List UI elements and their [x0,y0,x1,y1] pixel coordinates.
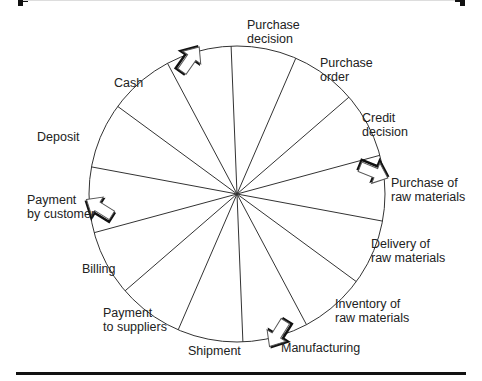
spoke-line [237,194,307,325]
spoke-line [168,63,238,194]
stage-label-line: Payment [27,193,95,207]
stage-label-line: to suppliers [103,320,167,334]
stage-label-payment-to-suppliers: Paymentto suppliers [103,306,167,334]
spoke-line [118,106,237,194]
stage-label-line: Purchase [320,56,373,70]
spoke-line [237,155,380,194]
stage-label-cash: Cash [114,76,143,90]
stage-label-line: decision [362,125,408,139]
stage-label-line: Payment [103,306,167,320]
stage-label-line: Inventory of [335,297,409,311]
frame-bottom-rule [16,372,466,375]
spoke-line [237,97,349,194]
frame-top-rule [23,0,460,1]
stage-label-line: order [320,70,373,84]
stage-label-shipment: Shipment [188,344,241,358]
spoke-line [92,167,238,194]
stage-label-line: Purchase of [391,176,465,190]
stage-label-deposit: Deposit [37,130,79,144]
stage-label-credit-decision: Creditdecision [362,111,408,139]
stage-label-purchase-decision: Purchasedecision [247,18,300,46]
frame-top-right-corner [455,0,465,6]
stage-label-line: by customer [27,207,95,221]
spoke-line [125,194,237,291]
stage-label-line: Billing [82,262,115,276]
stage-label-line: Purchase [247,18,300,32]
stage-label-line: Delivery of [371,237,445,251]
spoke-line [231,46,237,194]
stage-label-manufacturing: Manufacturing [281,341,360,355]
stage-label-line: Shipment [188,344,241,358]
stage-label-billing: Billing [82,262,115,276]
stage-label-line: decision [247,32,300,46]
spoke-line [178,194,237,330]
stage-label-inventory-of-raw-materials: Inventory ofraw materials [335,297,409,325]
stage-label-line: raw materials [335,311,409,325]
arrow-right-icon [355,154,393,188]
stage-label-line: Credit [362,111,408,125]
stage-label-delivery-of-raw-materials: Delivery ofraw materials [371,237,445,265]
stage-label-payment-by-customer: Paymentby customer [27,193,95,221]
spoke-line [237,194,383,221]
spoke-line [237,194,243,342]
stage-label-line: raw materials [391,190,465,204]
spoke-line [237,58,296,194]
stage-label-line: raw materials [371,251,445,265]
stage-label-line: Deposit [37,130,79,144]
spoke-line [237,194,356,282]
stage-label-purchase-order: Purchaseorder [320,56,373,84]
stage-label-line: Manufacturing [281,341,360,355]
stage-label-line: Cash [114,76,143,90]
stage-label-purchase-of-raw-materials: Purchase ofraw materials [391,176,465,204]
